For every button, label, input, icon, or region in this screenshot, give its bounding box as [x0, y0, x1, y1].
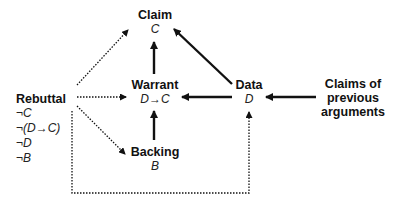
warrant-title: Warrant: [128, 78, 182, 92]
rebuttal-item: ¬D: [16, 136, 60, 151]
claim-title: Claim: [136, 8, 174, 22]
rebuttal-title: Rebuttal: [16, 92, 66, 106]
previous-line1: Claims of: [318, 77, 388, 91]
rebuttal-item: ¬C: [16, 106, 60, 121]
rebuttal-item: ¬B: [16, 151, 60, 166]
data-symbol: D: [234, 92, 264, 106]
previous-line3: arguments: [318, 105, 388, 119]
rebuttal-node: Rebuttal: [16, 92, 66, 106]
claim-symbol: C: [136, 22, 174, 36]
data-title: Data: [234, 78, 264, 92]
rebuttal-list: ¬C ¬(D→C) ¬D ¬B: [16, 106, 60, 166]
backing-symbol: B: [127, 159, 183, 173]
previous-claims-node: Claims of previous arguments: [318, 77, 388, 119]
edge-rebuttal-to-backing: [77, 106, 125, 154]
warrant-symbol: D→C: [128, 92, 182, 106]
backing-title: Backing: [127, 145, 183, 159]
edge-data-to-claim: [174, 29, 232, 84]
data-node: Data D: [234, 78, 264, 106]
previous-line2: previous: [318, 91, 388, 105]
warrant-node: Warrant D→C: [128, 78, 182, 106]
backing-node: Backing B: [127, 145, 183, 173]
rebuttal-item: ¬(D→C): [16, 121, 60, 136]
edge-rebuttal-to-claim: [77, 30, 128, 85]
claim-node: Claim C: [136, 8, 174, 36]
